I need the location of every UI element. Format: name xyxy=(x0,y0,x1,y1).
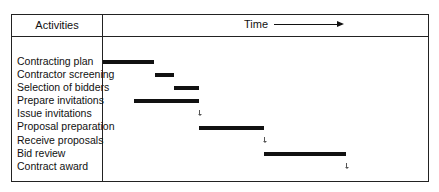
activity-label: Prepare invitations xyxy=(17,94,114,107)
activity-label: Bid review xyxy=(17,147,114,160)
activity-label: Contract award xyxy=(17,160,114,173)
activity-label: Selection of bidders xyxy=(17,81,114,94)
activity-label: Contracting plan xyxy=(17,55,114,68)
time-arrow-icon xyxy=(274,24,342,25)
activity-label: Issue invitations xyxy=(17,107,114,120)
task-bar xyxy=(199,126,264,130)
milestone-arrow-icon xyxy=(199,110,200,115)
header-divider xyxy=(11,36,429,37)
milestone-arrow-icon xyxy=(346,163,347,168)
task-bar xyxy=(264,152,346,156)
activity-label: Receive proposals xyxy=(17,134,114,147)
time-header: Time xyxy=(244,18,342,30)
task-bar xyxy=(155,73,174,77)
task-bar xyxy=(134,99,199,103)
activity-list: Contracting plan Contractor screening Se… xyxy=(17,55,114,173)
milestone-arrow-icon xyxy=(264,137,265,142)
task-bar xyxy=(174,86,199,90)
time-label: Time xyxy=(244,18,268,30)
task-bar xyxy=(103,60,154,64)
activity-label: Proposal preparation xyxy=(17,120,114,133)
activity-label: Contractor screening xyxy=(17,68,114,81)
activities-header: Activities xyxy=(12,14,102,36)
